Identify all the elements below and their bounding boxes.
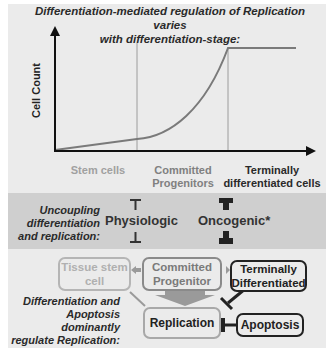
apoptosis-text: Apoptosis [241,318,300,332]
uncoupling-label: Uncoupling differentiation and replicati… [10,204,100,243]
box-tissue-stem-cell: Tissue stem cell [58,257,131,291]
x-label-committed-l1: Committed [148,164,218,177]
x-label-stem-text: Stem cells [71,164,125,176]
tissue-stem-l1: Tissue stem [61,260,127,274]
arrow-committed-to-replication [155,289,215,306]
x-label-terminal-l2: differentiated cells [222,177,322,190]
replication-text: Replication [150,316,215,330]
inhibit-terminal-to-replication [221,289,245,309]
committed-l1: Committed [152,260,212,274]
inhibit-apoptosis-to-replication [223,318,236,332]
arrow-stem-to-replication [130,292,145,306]
regulation-l3: regulate Replication: [10,334,120,347]
tissue-stem-l2: cell [61,274,127,288]
regulation-l1: Differentiation and [10,295,120,308]
box-committed-progenitor: Committed Progenitor [142,257,222,291]
regulation-l2: Apoptosis dominantly [10,308,120,334]
cell-count-curve [55,48,296,150]
y-axis-label: Cell Count [30,63,42,118]
x-axis-arrowhead [306,146,316,156]
uncoupling-l2: differentiation [10,217,100,230]
terminal-l1: Terminally [231,262,305,276]
x-label-committed: Committed Progenitors [148,164,218,190]
x-label-committed-l2: Progenitors [148,177,218,190]
box-apoptosis: Apoptosis [236,313,304,337]
box-terminally-differentiated: Terminally Differentiated [230,260,307,292]
y-axis-arrowhead [50,26,60,36]
physiologic-label: Physiologic [105,213,178,228]
uncoupling-l1: Uncoupling [10,204,100,217]
arrow-stem-to-committed [131,266,141,274]
x-label-terminal-l1: Terminally [222,164,322,177]
terminal-l2: Differentiated [231,276,305,290]
x-label-stem-cells: Stem cells [68,164,128,177]
box-replication: Replication [143,307,221,339]
regulation-label: Differentiation and Apoptosis dominantly… [10,295,120,347]
uncoupling-l3: and replication: [10,230,100,243]
committed-l2: Progenitor [152,274,212,288]
oncogenic-label: Oncogenic* [198,213,270,228]
x-label-terminal: Terminally differentiated cells [222,164,322,190]
